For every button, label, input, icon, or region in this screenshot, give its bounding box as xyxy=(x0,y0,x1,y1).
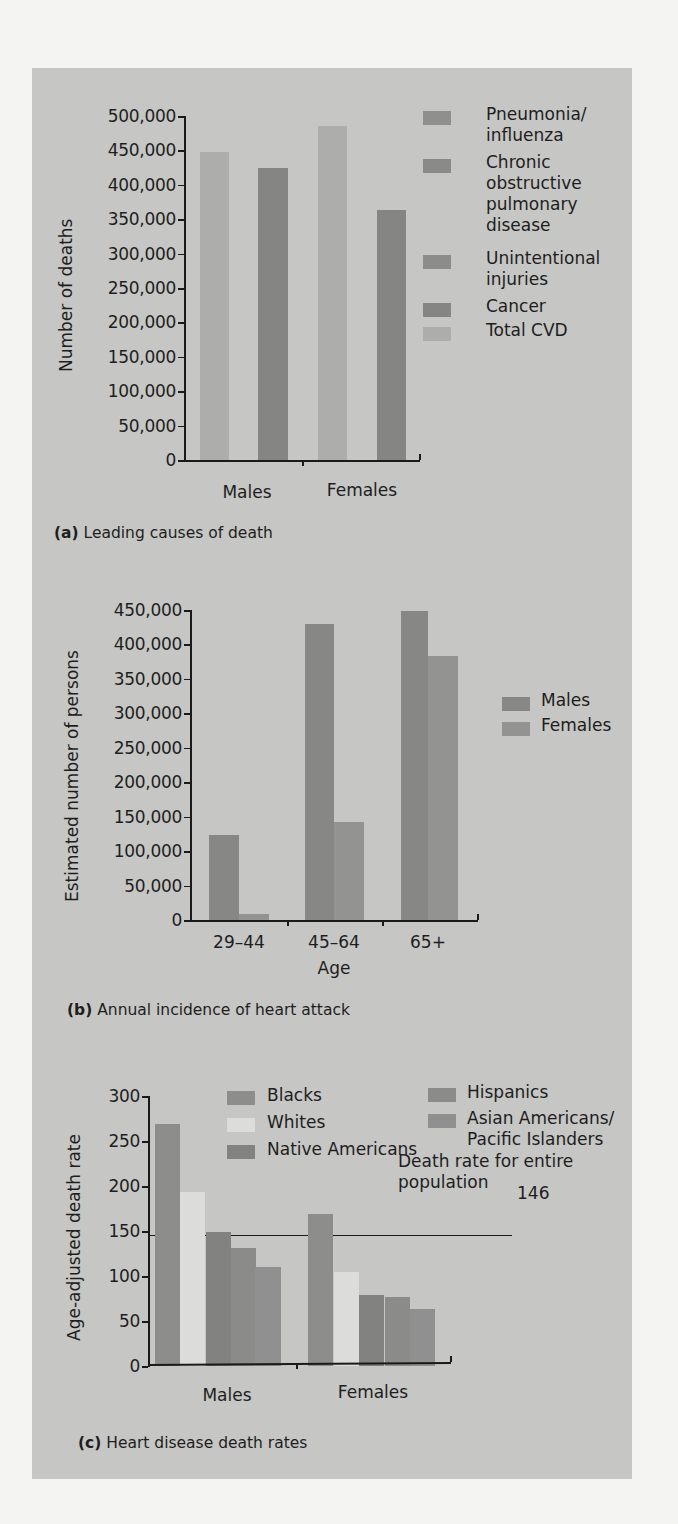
bar-males-65- xyxy=(401,611,428,920)
bar-females-65- xyxy=(428,656,458,920)
legend-label-total-cvd: Total CVD xyxy=(486,320,568,341)
x-category-females-a: Females xyxy=(302,480,422,500)
legend-swatch-blacks xyxy=(227,1091,255,1105)
legend-swatch-cancer xyxy=(423,303,451,317)
y-tick-label: 250,000 xyxy=(62,738,182,758)
caption-b: (b) Annual incidence of heart attack xyxy=(67,1001,350,1019)
bar-total-cvd-females xyxy=(318,126,347,460)
y-axis-b xyxy=(190,610,192,921)
legend-swatch-whites xyxy=(227,1118,255,1132)
y-tick-label: 50,000 xyxy=(56,416,176,436)
bar-females-45-64 xyxy=(334,822,364,920)
bar-blacks-females xyxy=(308,1214,333,1366)
x-tick-b-end xyxy=(477,914,479,920)
x-tick-c-end xyxy=(450,1356,452,1362)
legend-swatch-females xyxy=(502,722,530,736)
bar-blacks-males xyxy=(155,1124,180,1366)
caption-a: (a) Leading causes of death xyxy=(54,524,273,542)
y-tick-label: 250,000 xyxy=(56,278,176,298)
y-tick-label: 150 xyxy=(20,1221,140,1241)
legend-label-copd: Chronicobstructivepulmonarydisease xyxy=(486,152,582,236)
y-tick-label: 50 xyxy=(20,1311,140,1331)
legend-label-native-americans: Native Americans xyxy=(267,1139,417,1160)
x-tick-b-2 xyxy=(382,920,384,926)
legend-swatch-copd xyxy=(423,159,451,173)
y-tick-label: 0 xyxy=(20,1356,140,1376)
bar-cancer-males xyxy=(258,168,288,460)
bar-asian-americans-pacific-islanders-females xyxy=(410,1309,435,1366)
caption-c: (c) Heart disease death rates xyxy=(78,1434,307,1452)
y-tick-label: 400,000 xyxy=(56,175,176,195)
y-tick-label: 450,000 xyxy=(56,140,176,160)
y-tick-label: 350,000 xyxy=(56,209,176,229)
legend-swatch-native-americans xyxy=(227,1145,255,1159)
y-tick-label: 250 xyxy=(20,1131,140,1151)
y-tick-label: 300 xyxy=(20,1086,140,1106)
x-axis-label-b: Age xyxy=(274,958,394,978)
y-tick-label: 200,000 xyxy=(56,312,176,332)
legend-label-whites: Whites xyxy=(267,1112,325,1133)
legend-label-females: Females xyxy=(541,715,611,736)
y-tick-label: 500,000 xyxy=(56,106,176,126)
y-axis-a xyxy=(184,116,186,461)
legend-label-cancer: Cancer xyxy=(486,296,546,317)
y-tick-label: 150,000 xyxy=(62,807,182,827)
x-tick-a-end xyxy=(419,454,421,460)
x-tick-a-divider xyxy=(302,460,304,466)
bar-males-29-44 xyxy=(209,835,239,920)
y-tick-label: 100,000 xyxy=(56,381,176,401)
legend-swatch-males xyxy=(502,697,530,711)
bar-whites-females xyxy=(334,1272,359,1366)
y-tick-label: 350,000 xyxy=(62,669,182,689)
x-tick-b-1 xyxy=(287,920,289,926)
legend-label-blacks: Blacks xyxy=(267,1085,322,1106)
bar-hispanics-males xyxy=(231,1248,256,1366)
x-category-males-c: Males xyxy=(167,1385,287,1405)
legend-label-asian-pacific-islanders: Asian Americans/ Pacific Islanders xyxy=(467,1108,614,1150)
legend-swatch-asian-pacific-islanders xyxy=(428,1114,456,1128)
y-tick-label: 300,000 xyxy=(62,703,182,723)
bar-cancer-females xyxy=(377,210,406,460)
y-tick-label: 0 xyxy=(56,450,176,470)
bar-whites-males xyxy=(180,1192,205,1366)
bar-native-americans-males xyxy=(206,1232,231,1366)
legend-label-hispanics: Hispanics xyxy=(467,1082,548,1103)
legend-label-unintentional-injuries: Unintentionalinjuries xyxy=(486,248,600,290)
x-axis-b xyxy=(190,920,478,922)
x-category-females-c: Females xyxy=(313,1382,433,1402)
bar-native-americans-females xyxy=(359,1295,384,1366)
y-tick-label: 200 xyxy=(20,1176,140,1196)
bar-total-cvd-males xyxy=(200,152,229,460)
y-tick-label: 0 xyxy=(62,910,182,930)
y-tick-label: 200,000 xyxy=(62,772,182,792)
x-category-65-plus: 65+ xyxy=(368,932,488,952)
bar-females-29-44 xyxy=(239,914,269,920)
bar-asian-americans-pacific-islanders-males xyxy=(255,1267,281,1366)
bar-males-45-64 xyxy=(305,624,334,920)
legend-swatch-pneumonia xyxy=(423,111,451,125)
reference-line-value: 146 xyxy=(517,1183,549,1204)
legend-label-pneumonia: Pneumonia/influenza xyxy=(486,104,587,146)
y-tick-label: 100 xyxy=(20,1266,140,1286)
bar-hispanics-females xyxy=(385,1297,410,1366)
y-tick-label: 450,000 xyxy=(62,600,182,620)
legend-swatch-total-cvd xyxy=(423,327,451,341)
legend-swatch-unintentional-injuries xyxy=(423,255,451,269)
y-tick-label: 100,000 xyxy=(62,841,182,861)
y-tick-label: 150,000 xyxy=(56,347,176,367)
x-category-males-a: Males xyxy=(187,482,307,502)
legend-swatch-hispanics xyxy=(428,1088,456,1102)
y-tick-label: 400,000 xyxy=(62,634,182,654)
y-tick-label: 300,000 xyxy=(56,244,176,264)
x-tick-c-divider xyxy=(296,1363,298,1369)
y-axis-c xyxy=(148,1096,150,1367)
y-tick-label: 50,000 xyxy=(62,876,182,896)
legend-label-males: Males xyxy=(541,690,590,711)
